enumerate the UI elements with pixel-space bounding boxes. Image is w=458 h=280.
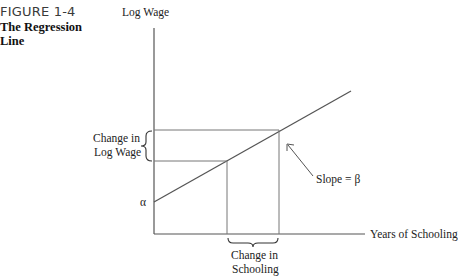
regression-line — [154, 91, 351, 202]
slope-label: Slope = β — [316, 173, 360, 186]
slope-arrow — [288, 145, 313, 176]
y-axis-label: Log Wage — [122, 6, 169, 19]
intercept-label: α — [140, 196, 146, 208]
change-schooling-line2: Schooling — [232, 263, 279, 276]
change-log-wage-line2: Log Wage — [94, 146, 141, 159]
change-schooling-line1: Change in — [231, 249, 278, 262]
left-brace — [141, 131, 152, 161]
x-axis-label: Years of Schooling — [370, 228, 458, 241]
change-log-wage-line1: Change in — [93, 132, 140, 145]
bottom-brace — [228, 238, 278, 247]
regression-diagram: Log Wage Years of Schooling α Change in … — [0, 0, 458, 280]
